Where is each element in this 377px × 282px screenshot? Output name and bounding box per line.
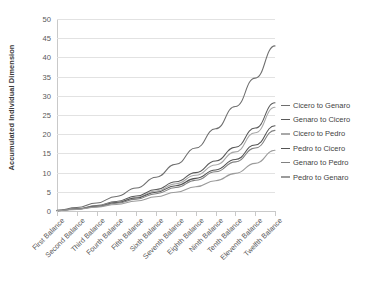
y-axis-tick-label: 50	[43, 15, 51, 24]
y-axis-title-label: Accumulated Individual Dimension	[7, 45, 16, 171]
y-axis-tick-labels: 05101520253035404550	[22, 0, 55, 215]
legend-color-swatch	[281, 148, 290, 149]
legend-item[interactable]: Pedro to Genaro	[281, 170, 377, 184]
legend-item[interactable]: Cicero to Pedro	[281, 127, 377, 141]
series-line	[57, 126, 275, 211]
legend-label: Pedro to Cicero	[293, 144, 345, 153]
y-axis-tick-label: 45	[43, 34, 51, 43]
legend-label: Pedro to Genaro	[293, 173, 348, 182]
legend-item[interactable]: Pedro to Cicero	[281, 141, 377, 155]
legend-item[interactable]: Genaro to Pedro	[281, 156, 377, 170]
y-axis-title: Accumulated Individual Dimension	[0, 0, 22, 215]
legend-item[interactable]: Genaro to Cicero	[281, 112, 377, 126]
y-axis-tick-label: 15	[43, 149, 51, 158]
legend-color-swatch	[281, 176, 290, 177]
y-axis-tick-label: 40	[43, 53, 51, 62]
legend: Cicero to GenaroGenaro to CiceroCicero t…	[281, 98, 377, 184]
y-axis-tick-label: 0	[47, 207, 51, 216]
legend-color-swatch	[281, 133, 290, 134]
x-axis-tick-labels: First BalanceSecond BalanceThird Balance…	[0, 216, 300, 282]
plot-area	[57, 19, 275, 211]
legend-item[interactable]: Cicero to Genaro	[281, 98, 377, 112]
legend-color-swatch	[281, 119, 290, 120]
line-chart: Accumulated Individual Dimension 0510152…	[0, 0, 377, 282]
legend-label: Genaro to Pedro	[293, 158, 348, 167]
legend-label: Cicero to Genaro	[293, 101, 350, 110]
y-axis-tick-label: 10	[43, 168, 51, 177]
y-axis-tick-label: 35	[43, 72, 51, 81]
y-axis-tick-label: 25	[43, 111, 51, 120]
y-axis-tick-label: 5	[47, 187, 51, 196]
y-axis-tick-label: 30	[43, 91, 51, 100]
series-lines	[57, 19, 275, 211]
legend-color-swatch	[281, 162, 290, 163]
y-axis-tick-label: 20	[43, 130, 51, 139]
legend-color-swatch	[281, 105, 290, 106]
legend-label: Cicero to Pedro	[293, 129, 345, 138]
legend-label: Genaro to Cicero	[293, 115, 350, 124]
